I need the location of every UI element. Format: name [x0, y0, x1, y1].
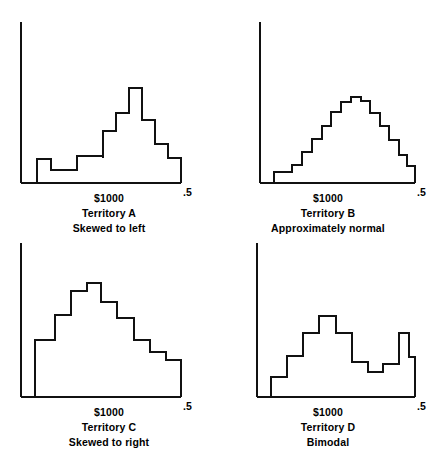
histogram-svg-a: .5	[0, 0, 218, 200]
histogram-svg-b: .5	[219, 0, 437, 200]
histogram-outline-b	[274, 97, 415, 183]
caption-line-xlabel-c: $1000	[0, 405, 218, 420]
caption-line-subtitle-c: Skewed to right	[0, 435, 218, 450]
histogram-figure: .5 $1000 Territory A Skewed to left .5 $…	[0, 0, 437, 471]
panel-territory-c: .5 $1000 Territory C Skewed to right	[0, 240, 218, 471]
caption-line-xlabel-d: $1000	[219, 405, 437, 420]
caption-line-subtitle-d: Bimodal	[219, 435, 437, 450]
caption-territory-c: $1000 Territory C Skewed to right	[0, 405, 218, 450]
caption-territory-d: $1000 Territory D Bimodal	[219, 405, 437, 450]
panel-territory-b: .5 $1000 Territory B Approximately norma…	[219, 0, 437, 236]
histogram-outline-d	[271, 316, 415, 397]
caption-territory-b: $1000 Territory B Approximately normal	[219, 191, 437, 236]
caption-line-title-c: Territory C	[0, 420, 218, 435]
caption-line-subtitle-a: Skewed to left	[0, 221, 218, 236]
panel-territory-a: .5 $1000 Territory A Skewed to left	[0, 0, 218, 236]
caption-line-xlabel-a: $1000	[0, 191, 218, 206]
caption-line-xlabel-b: $1000	[219, 191, 437, 206]
panel-territory-d: .5 $1000 Territory D Bimodal	[219, 240, 437, 471]
caption-line-subtitle-b: Approximately normal	[219, 221, 437, 236]
histogram-outline-a	[37, 88, 181, 183]
caption-line-title-b: Territory B	[219, 206, 437, 221]
caption-line-title-a: Territory A	[0, 206, 218, 221]
caption-line-title-d: Territory D	[219, 420, 437, 435]
caption-territory-a: $1000 Territory A Skewed to left	[0, 191, 218, 236]
histogram-outline-c	[35, 283, 181, 397]
